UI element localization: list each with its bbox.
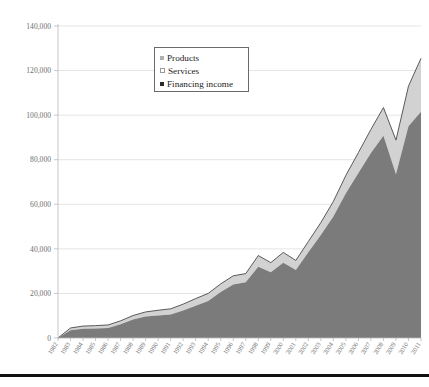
y-axis-tick-labels: 020,00040,00060,00080,000100,000120,0001… bbox=[26, 22, 51, 343]
legend-label-services: Services bbox=[168, 66, 199, 76]
x-axis-tick-labels: 1982198319841985198619871988198919901991… bbox=[46, 340, 422, 355]
x-tick-label: 2001 bbox=[284, 341, 297, 356]
legend-swatch-financing-income bbox=[160, 82, 164, 86]
x-tick-label: 2002 bbox=[296, 341, 309, 356]
x-tick-label: 1985 bbox=[84, 341, 97, 356]
x-tick-label: 1993 bbox=[184, 341, 197, 356]
x-tick-label: 2011 bbox=[409, 341, 422, 355]
legend-item-products: Products bbox=[160, 51, 244, 64]
x-tick-label: 1988 bbox=[121, 341, 134, 356]
x-tick-label: 1986 bbox=[96, 341, 109, 356]
y-tick-label: 40,000 bbox=[30, 245, 51, 254]
area-series-group bbox=[58, 58, 421, 338]
legend-label-products: Products bbox=[167, 53, 199, 63]
y-tick-label: 20,000 bbox=[30, 289, 51, 298]
chart-legend: Products Services Financing income bbox=[154, 47, 249, 92]
x-tick-label: 2009 bbox=[384, 341, 397, 356]
x-tick-label: 2007 bbox=[359, 340, 372, 355]
x-tick-label: 1984 bbox=[71, 340, 84, 355]
x-tick-label: 2010 bbox=[397, 341, 410, 356]
x-tick-label: 1989 bbox=[134, 341, 147, 356]
legend-item-services: Services bbox=[160, 64, 244, 77]
y-tick-label: 120,000 bbox=[26, 66, 51, 75]
x-tick-label: 2003 bbox=[309, 341, 322, 356]
legend-label-financing-income: Financing income bbox=[167, 79, 233, 89]
x-tick-label: 2008 bbox=[372, 341, 385, 356]
bottom-divider bbox=[0, 374, 429, 377]
x-tick-label: 1983 bbox=[59, 341, 72, 356]
area-chart: 020,00040,00060,00080,000100,000120,0001… bbox=[0, 0, 429, 387]
y-tick-label: 140,000 bbox=[26, 22, 51, 31]
legend-swatch-products bbox=[160, 56, 164, 60]
x-tick-label: 1987 bbox=[109, 340, 122, 355]
x-tick-label: 2005 bbox=[334, 341, 347, 356]
y-tick-label: 80,000 bbox=[30, 155, 51, 164]
x-tick-label: 1991 bbox=[159, 341, 172, 356]
x-tick-label: 1995 bbox=[209, 341, 222, 356]
x-tick-label: 1994 bbox=[196, 340, 209, 355]
x-tick-label: 1997 bbox=[234, 340, 247, 355]
x-tick-label: 1998 bbox=[246, 341, 259, 356]
legend-swatch-services bbox=[160, 68, 165, 73]
y-tick-label: 60,000 bbox=[30, 200, 51, 209]
x-tick-label: 1999 bbox=[259, 341, 272, 356]
x-tick-label: 2004 bbox=[322, 340, 335, 355]
legend-item-financing-income: Financing income bbox=[160, 77, 244, 90]
x-tick-label: 1996 bbox=[221, 341, 234, 356]
x-tick-label: 1982 bbox=[46, 341, 59, 356]
y-tick-label: 0 bbox=[47, 334, 51, 343]
x-tick-label: 1990 bbox=[146, 341, 159, 356]
x-tick-label: 2000 bbox=[271, 341, 284, 356]
x-tick-label: 1992 bbox=[171, 341, 184, 356]
y-tick-label: 100,000 bbox=[26, 111, 51, 120]
x-tick-label: 2006 bbox=[347, 341, 360, 356]
